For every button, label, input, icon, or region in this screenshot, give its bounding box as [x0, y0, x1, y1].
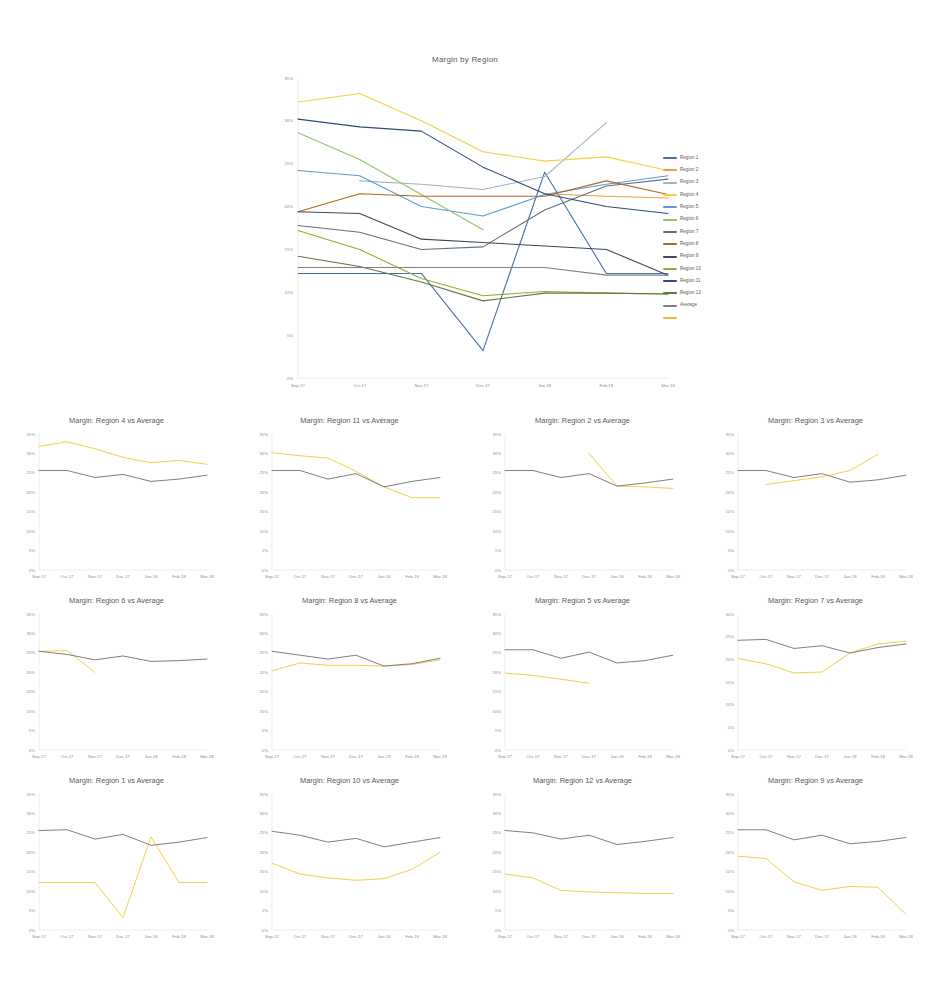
- small-multiple-title: Margin: Region 6 vs Average: [0, 590, 233, 608]
- svg-text:10%: 10%: [492, 889, 501, 894]
- legend-item[interactable]: Region 8: [663, 238, 701, 250]
- small-multiple-sm-r7: Margin: Region 7 vs Average0%5%10%15%20%…: [699, 590, 932, 770]
- svg-text:20%: 20%: [725, 490, 734, 495]
- svg-text:5%: 5%: [287, 333, 293, 338]
- small-multiple-plot: 0%5%10%15%20%25%30%35%Sep-17Oct-17Nov-17…: [708, 428, 923, 588]
- svg-text:Feb-18: Feb-18: [638, 574, 652, 579]
- svg-text:35%: 35%: [725, 792, 734, 797]
- svg-text:20%: 20%: [725, 850, 734, 855]
- svg-text:35%: 35%: [26, 432, 35, 437]
- legend-swatch-icon: [663, 317, 677, 319]
- small-multiple-plot: 0%5%10%15%20%25%30%35%Sep-17Oct-17Nov-17…: [242, 608, 457, 768]
- svg-text:20%: 20%: [259, 850, 268, 855]
- svg-text:30%: 30%: [492, 811, 501, 816]
- svg-text:Feb-18: Feb-18: [871, 574, 885, 579]
- svg-text:Feb-18: Feb-18: [638, 754, 652, 759]
- small-multiple-title: Margin: Region 4 vs Average: [0, 410, 233, 428]
- svg-text:0%: 0%: [728, 748, 734, 753]
- small-multiple-plot: 0%5%10%15%20%25%30%35%Sep-17Oct-17Nov-17…: [9, 788, 224, 948]
- svg-text:Sep-17: Sep-17: [498, 574, 512, 579]
- svg-text:20%: 20%: [492, 850, 501, 855]
- legend-item[interactable]: Region 3: [663, 177, 701, 189]
- main-chart-plot: 0%5%10%15%20%25%30%35%Sep-17Oct-17Nov-17…: [250, 64, 720, 404]
- small-multiple-plot: 0%5%10%15%20%25%30%35%Sep-17Oct-17Nov-17…: [708, 788, 923, 948]
- svg-text:Mar-18: Mar-18: [899, 754, 913, 759]
- svg-text:30%: 30%: [26, 451, 35, 456]
- svg-text:Oct-17: Oct-17: [527, 754, 541, 759]
- small-multiple-plot: 0%5%10%15%20%25%30%35%Sep-17Oct-17Nov-17…: [9, 428, 224, 588]
- svg-text:Dec-17: Dec-17: [476, 383, 490, 388]
- small-multiple-sm-r11: Margin: Region 11 vs Average0%5%10%15%20…: [233, 410, 466, 590]
- small-multiple-sm-r9: Margin: Region 9 vs Average0%5%10%15%20%…: [699, 770, 932, 950]
- svg-text:Mar-18: Mar-18: [200, 754, 214, 759]
- small-multiple-sm-r6: Margin: Region 6 vs Average0%5%10%15%20%…: [0, 590, 233, 770]
- legend-item[interactable]: Average: [663, 300, 701, 312]
- svg-text:Feb-18: Feb-18: [405, 934, 419, 939]
- svg-text:20%: 20%: [492, 490, 501, 495]
- svg-text:10%: 10%: [26, 889, 35, 894]
- legend-item[interactable]: Region 4: [663, 189, 701, 201]
- svg-text:Feb-18: Feb-18: [405, 574, 419, 579]
- main-chart-title: Margin by Region: [210, 55, 720, 64]
- svg-text:20%: 20%: [492, 670, 501, 675]
- small-multiple-plot: 0%5%10%15%20%25%30%35%Sep-17Oct-17Nov-17…: [9, 608, 224, 768]
- small-multiple-sm-r4: Margin: Region 4 vs Average0%5%10%15%20%…: [0, 410, 233, 590]
- svg-text:15%: 15%: [26, 509, 35, 514]
- legend-item[interactable]: Region 9: [663, 250, 701, 262]
- small-multiples-row: Margin: Region 4 vs Average0%5%10%15%20%…: [0, 410, 933, 590]
- svg-text:15%: 15%: [26, 689, 35, 694]
- svg-text:Oct-17: Oct-17: [760, 934, 774, 939]
- small-multiple-title: Margin: Region 2 vs Average: [466, 410, 699, 428]
- small-multiple-plot: 0%5%10%15%20%25%30%35%Sep-17Oct-17Nov-17…: [242, 428, 457, 588]
- small-multiple-plot: 0%5%10%15%20%25%30%35%Sep-17Oct-17Nov-17…: [475, 788, 690, 948]
- svg-text:0%: 0%: [262, 748, 268, 753]
- legend-item[interactable]: Region 5: [663, 201, 701, 213]
- legend-item[interactable]: Region 12: [663, 287, 701, 299]
- svg-text:Sep-17: Sep-17: [32, 574, 46, 579]
- svg-text:Oct-17: Oct-17: [294, 754, 308, 759]
- small-multiple-title: Margin: Region 11 vs Average: [233, 410, 466, 428]
- svg-text:30%: 30%: [725, 612, 734, 617]
- svg-text:0%: 0%: [29, 568, 35, 573]
- svg-text:5%: 5%: [495, 728, 501, 733]
- legend-item[interactable]: Region 10: [663, 263, 701, 275]
- legend-swatch-icon: [663, 206, 677, 208]
- svg-text:Sep-17: Sep-17: [265, 754, 279, 759]
- svg-text:15%: 15%: [259, 689, 268, 694]
- svg-text:15%: 15%: [492, 509, 501, 514]
- svg-text:5%: 5%: [728, 548, 734, 553]
- svg-text:0%: 0%: [495, 928, 501, 933]
- legend-item[interactable]: Region 6: [663, 213, 701, 225]
- small-multiple-title: Margin: Region 3 vs Average: [699, 410, 932, 428]
- svg-text:Jan-18: Jan-18: [377, 754, 391, 759]
- svg-text:Sep-17: Sep-17: [291, 383, 305, 388]
- svg-text:35%: 35%: [725, 432, 734, 437]
- svg-text:Dec-17: Dec-17: [582, 574, 596, 579]
- svg-text:Oct-17: Oct-17: [294, 574, 308, 579]
- legend-item[interactable]: Region 11: [663, 275, 701, 287]
- legend-item-label: Region 7: [680, 230, 698, 235]
- legend-item-label: Region 11: [680, 279, 701, 284]
- legend-item[interactable]: Region 7: [663, 226, 701, 238]
- legend-swatch-icon: [663, 182, 677, 184]
- svg-text:20%: 20%: [26, 850, 35, 855]
- svg-text:Oct-17: Oct-17: [61, 754, 75, 759]
- svg-text:Dec-17: Dec-17: [815, 934, 829, 939]
- legend-item[interactable]: Region 2: [663, 164, 701, 176]
- svg-text:15%: 15%: [259, 869, 268, 874]
- svg-text:Oct-17: Oct-17: [294, 934, 308, 939]
- svg-text:Dec-17: Dec-17: [815, 574, 829, 579]
- svg-text:30%: 30%: [725, 451, 734, 456]
- svg-text:Dec-17: Dec-17: [582, 754, 596, 759]
- svg-text:Mar-18: Mar-18: [433, 754, 447, 759]
- legend-item-label: Region 3: [680, 180, 698, 185]
- legend-item[interactable]: [663, 312, 701, 324]
- svg-text:25%: 25%: [259, 470, 268, 475]
- svg-text:30%: 30%: [26, 811, 35, 816]
- legend-item-label: Region 8: [680, 242, 698, 247]
- svg-text:30%: 30%: [725, 811, 734, 816]
- legend-item-label: Region 1: [680, 156, 698, 161]
- svg-text:Mar-18: Mar-18: [666, 934, 680, 939]
- legend-item[interactable]: Region 1: [663, 152, 701, 164]
- small-multiples-grid: Margin: Region 4 vs Average0%5%10%15%20%…: [0, 410, 933, 950]
